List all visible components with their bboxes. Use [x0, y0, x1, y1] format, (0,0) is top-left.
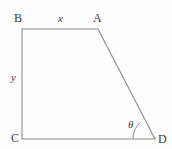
side-label-y: y — [11, 72, 16, 83]
geometry-figure: B A D C x y θ — [0, 0, 172, 149]
vertex-label-b: B — [14, 12, 22, 24]
figure-canvas — [0, 0, 172, 149]
side-label-x: x — [58, 13, 63, 24]
angle-arc-theta — [133, 122, 140, 139]
trapezoid-outline — [22, 29, 155, 139]
vertex-label-c: C — [11, 132, 19, 144]
vertex-label-d: D — [158, 133, 167, 145]
vertex-label-a: A — [93, 12, 102, 24]
angle-label-theta: θ — [128, 119, 133, 130]
